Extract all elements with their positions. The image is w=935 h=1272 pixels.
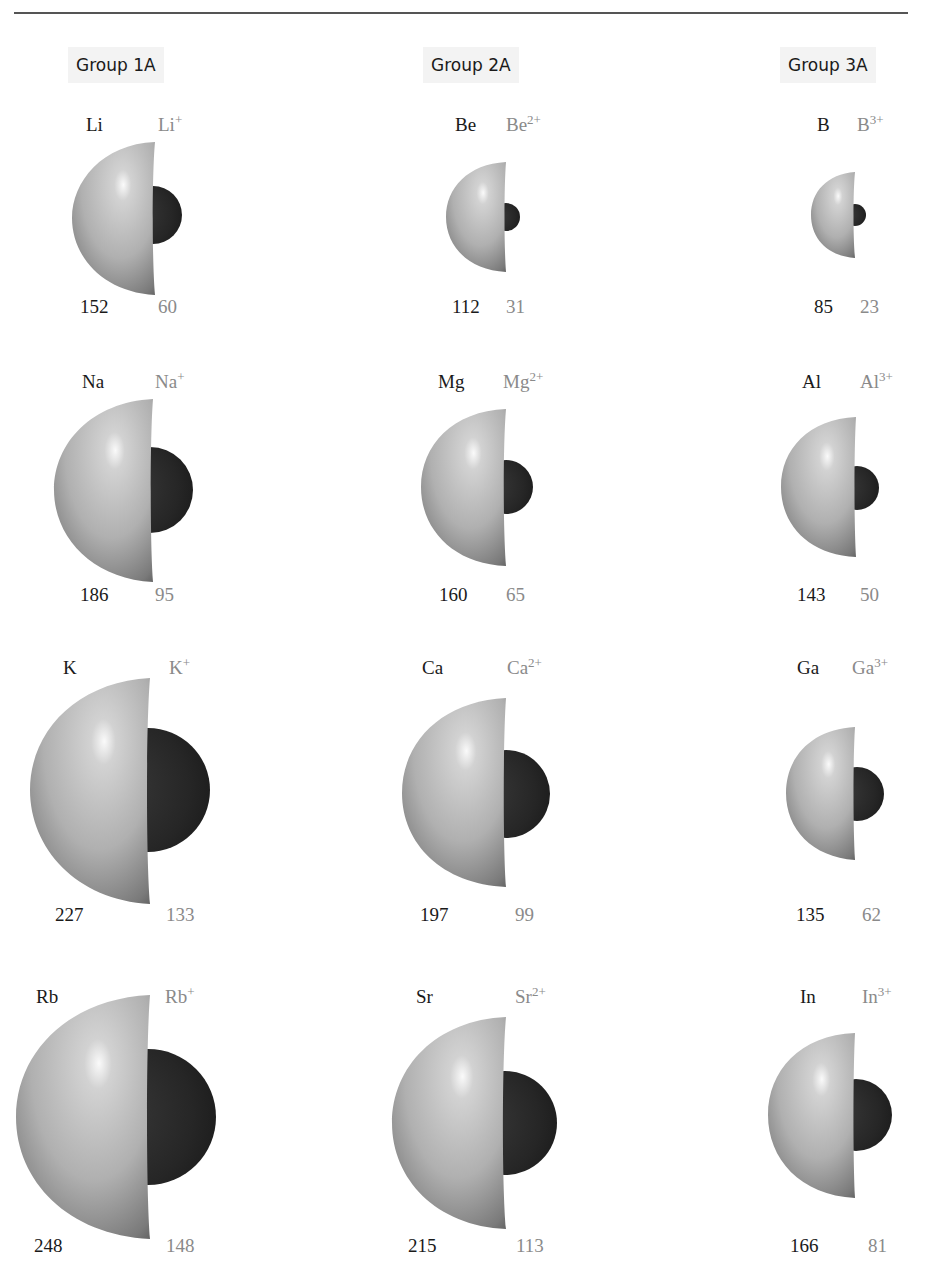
ion-radius-mg: 65 [506, 584, 525, 606]
ion-symbol-b: B3+ [857, 114, 884, 136]
sphere-icon [786, 727, 886, 863]
ion-radius-na: 95 [155, 584, 174, 606]
atom-symbol-na: Na [82, 371, 104, 393]
atom-symbol-al: Al [802, 371, 821, 393]
atom-symbol-b: B [817, 114, 830, 136]
atom-ion-pair-mg [421, 409, 535, 569]
header-rule [14, 12, 908, 14]
ion-symbol-ca: Ca2+ [507, 657, 542, 679]
group-label-2a: Group 2A [423, 47, 519, 83]
atom-radius-k: 227 [55, 904, 84, 926]
ion-radius-b: 23 [860, 296, 879, 318]
ion-symbol-be: Be2+ [506, 114, 541, 136]
atom-ion-pair-be [446, 162, 526, 274]
sphere-icon [421, 409, 535, 569]
ion-radius-be: 31 [506, 296, 525, 318]
ion-radius-rb: 148 [166, 1235, 195, 1257]
atom-radius-al: 143 [797, 584, 826, 606]
atom-radius-in: 166 [790, 1235, 819, 1257]
atom-symbol-mg: Mg [438, 371, 464, 393]
ion-radius-sr: 113 [516, 1235, 544, 1257]
ion-radius-al: 50 [860, 584, 879, 606]
atom-radius-na: 186 [80, 584, 109, 606]
ion-radius-in: 81 [868, 1235, 887, 1257]
atom-ion-pair-li [72, 142, 184, 296]
sphere-icon [16, 995, 220, 1241]
sphere-icon [446, 162, 526, 274]
sphere-icon [768, 1033, 896, 1203]
ion-symbol-in: In3+ [862, 986, 892, 1008]
ion-symbol-na: Na+ [155, 371, 185, 393]
atom-symbol-be: Be [455, 114, 476, 136]
sphere-icon [30, 678, 212, 906]
group-label-3a: Group 3A [780, 47, 876, 83]
ion-symbol-ga: Ga3+ [852, 657, 888, 679]
atom-symbol-ca: Ca [422, 657, 443, 679]
atom-ion-pair-na [54, 399, 196, 585]
atom-radius-sr: 215 [408, 1235, 437, 1257]
atom-symbol-in: In [800, 986, 816, 1008]
sphere-icon [811, 172, 871, 260]
atom-radius-ga: 135 [796, 904, 825, 926]
ion-radius-k: 133 [166, 904, 195, 926]
atom-symbol-sr: Sr [416, 986, 433, 1008]
atom-ion-pair-in [768, 1033, 896, 1203]
atom-symbol-k: K [63, 657, 77, 679]
sphere-icon [54, 399, 196, 585]
atom-radius-li: 152 [80, 296, 109, 318]
atom-symbol-ga: Ga [797, 657, 819, 679]
ion-symbol-k: K+ [169, 657, 190, 679]
atom-radius-be: 112 [452, 296, 480, 318]
ion-radius-ca: 99 [515, 904, 534, 926]
ion-radius-li: 60 [158, 296, 177, 318]
atom-radius-mg: 160 [439, 584, 468, 606]
atom-radius-ca: 197 [420, 904, 449, 926]
atom-ion-pair-al [781, 417, 881, 559]
group-label-1a: Group 1A [68, 47, 164, 83]
sphere-icon [72, 142, 184, 296]
ion-symbol-sr: Sr2+ [515, 986, 546, 1008]
ion-symbol-li: Li+ [158, 114, 182, 136]
atom-ion-pair-k [30, 678, 212, 906]
atom-ion-pair-ca [402, 698, 554, 890]
ion-radius-ga: 62 [862, 904, 881, 926]
sphere-icon [781, 417, 881, 559]
ion-symbol-mg: Mg2+ [503, 371, 543, 393]
atom-radius-rb: 248 [34, 1235, 63, 1257]
atom-ion-pair-b [811, 172, 871, 260]
ion-symbol-al: Al3+ [860, 371, 893, 393]
atom-ion-pair-sr [392, 1017, 562, 1233]
sphere-icon [392, 1017, 562, 1233]
atom-ion-pair-rb [16, 995, 220, 1241]
atom-ion-pair-ga [786, 727, 886, 863]
atom-radius-b: 85 [814, 296, 833, 318]
atom-symbol-li: Li [86, 114, 103, 136]
sphere-icon [402, 698, 554, 890]
